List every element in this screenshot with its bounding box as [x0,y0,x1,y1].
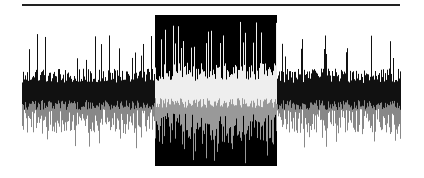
selection-region[interactable] [155,15,277,166]
waveform-editor[interactable] [0,0,424,178]
